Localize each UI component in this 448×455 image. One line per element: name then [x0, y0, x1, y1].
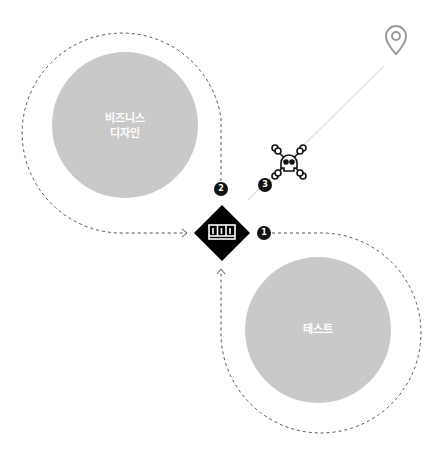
arrow-right-icon — [182, 229, 187, 237]
business-design-line1: 비즈니스 — [65, 111, 185, 126]
map-pin-icon[interactable] — [386, 26, 406, 54]
test-label-text: 테스트 — [258, 322, 378, 337]
test-label: 테스트 — [258, 322, 378, 337]
arrow-up-icon — [217, 269, 225, 274]
business-design-label: 비즈니스 디자인 — [65, 111, 185, 141]
business-design-line2: 디자인 — [65, 126, 185, 141]
step-badge-3: 3 — [258, 178, 272, 192]
cycle-diagram — [0, 0, 448, 455]
skull-crossbones-icon — [272, 145, 306, 179]
step-badge-1: 1 — [257, 226, 271, 240]
step-badge-2: 2 — [214, 182, 228, 196]
